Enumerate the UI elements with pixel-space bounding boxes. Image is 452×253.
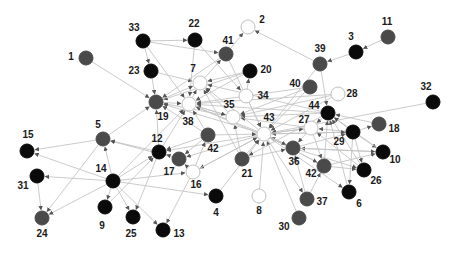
node-label-42: 42	[207, 143, 219, 154]
node-20	[243, 64, 257, 78]
node-21	[235, 152, 249, 166]
node-16	[186, 165, 200, 179]
node-37	[300, 192, 314, 206]
edge-21-to-36	[249, 150, 285, 158]
node-28	[331, 87, 345, 101]
edge-42b-to-26	[331, 167, 356, 170]
node-22	[188, 33, 202, 47]
node-18	[372, 117, 386, 131]
node-label-20: 20	[260, 64, 272, 75]
node-label-42b: 42	[305, 168, 317, 179]
network-graph: 1231133224139237204028321938343544432718…	[0, 0, 452, 253]
node-36	[286, 141, 300, 155]
node-label-28: 28	[346, 88, 358, 99]
node-8	[252, 189, 266, 203]
node-42b	[317, 159, 331, 173]
edge-29-to-18	[360, 126, 372, 129]
node-19	[149, 95, 163, 109]
node-17	[172, 152, 186, 166]
node-label-25: 25	[125, 228, 137, 239]
node-label-27: 27	[298, 114, 310, 125]
node-label-19: 19	[157, 111, 169, 122]
edge-29-to-6	[350, 139, 353, 184]
edge-14-to-12	[119, 156, 152, 177]
node-label-34: 34	[257, 90, 269, 101]
edge-31-to-24	[38, 183, 41, 210]
node-label-37: 37	[316, 196, 328, 207]
node-10	[376, 145, 390, 159]
node-label-13: 13	[173, 228, 185, 239]
edge-27-to-36	[298, 133, 306, 142]
node-33	[136, 34, 150, 48]
edge-43-to-6	[270, 138, 343, 188]
node-44	[321, 106, 335, 120]
edge-16-to-13	[167, 178, 190, 223]
node-14	[106, 174, 120, 188]
node-3	[349, 45, 363, 59]
node-label-15: 15	[22, 129, 34, 140]
node-label-5: 5	[95, 119, 101, 130]
node-13	[156, 223, 170, 237]
node-43	[257, 127, 271, 141]
edge-39-to-2	[255, 31, 314, 61]
edge-34-to-20	[247, 79, 249, 89]
node-label-16: 16	[190, 179, 202, 190]
edge-39-to-44	[321, 71, 327, 105]
edge-33-to-22	[150, 40, 187, 41]
edge-33-to-41	[150, 42, 218, 53]
node-4	[209, 189, 223, 203]
edge-1-to-19	[92, 62, 149, 98]
node-label-40: 40	[289, 78, 301, 89]
node-label-12: 12	[151, 133, 163, 144]
node-label-41: 41	[222, 35, 234, 46]
edge-3-to-39	[328, 54, 350, 61]
edge-42b-to-44	[325, 121, 328, 159]
edge-14-to-31	[45, 177, 106, 181]
node-5	[96, 132, 110, 146]
edge-19-to-38	[163, 102, 181, 103]
node-label-8: 8	[256, 205, 262, 216]
edge-18-to-44	[336, 115, 372, 123]
node-24	[35, 211, 49, 225]
node-label-22: 22	[188, 18, 200, 29]
edge-38-to-7	[192, 90, 196, 98]
node-label-9: 9	[99, 220, 105, 231]
node-label-7: 7	[190, 63, 196, 74]
node-30	[292, 211, 306, 225]
node-label-2: 2	[259, 14, 265, 25]
edge-14-to-16	[120, 173, 185, 180]
edge-5-to-19	[109, 107, 150, 135]
edge-42-to-43	[215, 134, 256, 135]
node-40	[303, 80, 317, 94]
node-layer	[20, 20, 440, 237]
node-26	[357, 163, 371, 177]
edge-23-to-7	[158, 73, 192, 81]
edge-5-to-15	[35, 140, 96, 150]
edge-16-to-17	[185, 164, 188, 167]
node-label-32: 32	[420, 81, 432, 92]
node-11	[381, 30, 395, 44]
edge-11-to-3	[363, 40, 382, 49]
node-34	[239, 89, 253, 103]
node-12	[152, 145, 166, 159]
node-32	[426, 95, 440, 109]
node-label-39: 39	[314, 43, 326, 54]
node-label-29: 29	[333, 136, 345, 147]
node-label-21: 21	[241, 168, 253, 179]
edge-14-to-9	[107, 188, 111, 200]
node-label-10: 10	[389, 154, 401, 165]
node-label-23: 23	[128, 65, 140, 76]
node-35	[226, 110, 240, 124]
node-1	[79, 51, 93, 65]
node-label-11: 11	[382, 16, 393, 27]
node-label-3: 3	[348, 31, 354, 42]
node-6	[342, 185, 356, 199]
node-label-17: 17	[163, 166, 175, 177]
node-42	[201, 128, 215, 142]
node-label-44: 44	[308, 100, 320, 111]
node-7	[193, 76, 207, 90]
node-15	[20, 144, 34, 158]
node-31	[30, 169, 44, 183]
node-label-31: 31	[17, 180, 29, 191]
node-label-33: 33	[128, 22, 140, 33]
